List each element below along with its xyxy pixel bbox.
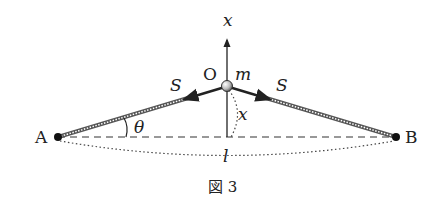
point-a-dot	[54, 133, 62, 141]
axis-label: x	[223, 10, 233, 30]
tension-arrow-left	[185, 87, 225, 99]
tension-right-label: S	[276, 75, 288, 95]
displacement-dotted	[229, 90, 238, 137]
tension-left-label: S	[170, 75, 182, 95]
point-b-label: B	[405, 127, 418, 147]
tension-arrow-right	[229, 87, 269, 99]
point-b-dot	[392, 133, 400, 141]
mass-ball	[222, 81, 233, 92]
length-label: l	[223, 146, 228, 166]
mass-label: m	[235, 64, 251, 84]
diagram: x O m S S A B θ x l 図 3	[0, 0, 444, 215]
origin-label: O	[203, 64, 217, 84]
angle-arc	[124, 118, 127, 137]
displacement-label: x	[238, 104, 248, 124]
figure-caption: 図 3	[208, 178, 237, 196]
point-a-label: A	[34, 127, 48, 147]
angle-label: θ	[134, 117, 144, 137]
